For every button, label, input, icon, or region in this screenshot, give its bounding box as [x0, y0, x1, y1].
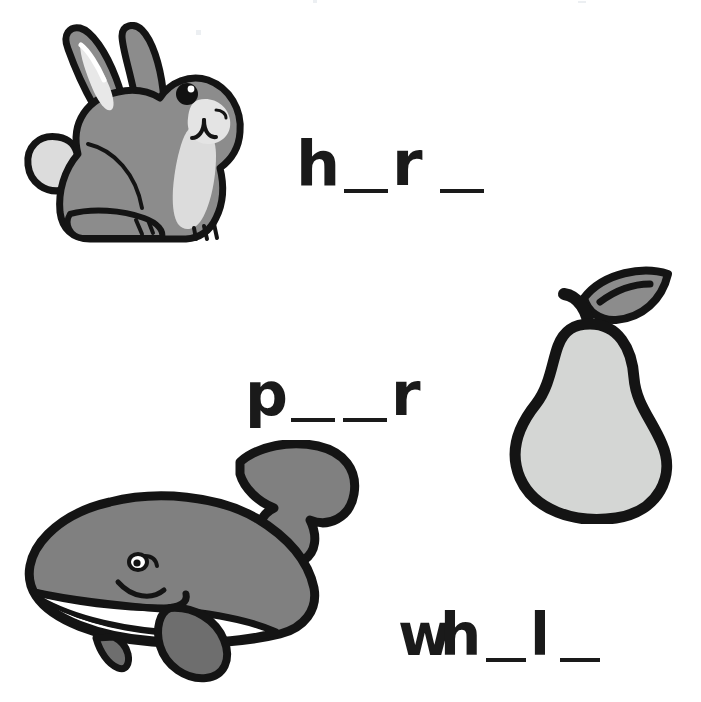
word-letter: p [245, 364, 287, 424]
word-letter: h [440, 606, 482, 664]
word-blank[interactable] [556, 606, 604, 664]
word-blank[interactable] [287, 364, 339, 424]
word-letter: r [392, 133, 436, 195]
pear-illustration [492, 262, 692, 524]
word-blank[interactable] [436, 133, 488, 195]
worksheet-page: h r p r wh l [0, 0, 701, 702]
word-blank[interactable] [482, 606, 530, 664]
word-whale[interactable]: wh l [398, 606, 604, 664]
word-hare[interactable]: h r [296, 133, 488, 195]
word-pear[interactable]: p r [245, 364, 433, 424]
word-letter: r [391, 364, 433, 424]
word-letter: l [530, 606, 556, 664]
rabbit-illustration [18, 22, 288, 262]
word-blank[interactable] [340, 133, 392, 195]
scan-artifact [313, 0, 317, 3]
whale-illustration [18, 440, 368, 692]
scan-artifact [578, 1, 586, 3]
word-letter: w [398, 606, 440, 664]
word-blank[interactable] [339, 364, 391, 424]
word-letter: h [296, 133, 340, 195]
